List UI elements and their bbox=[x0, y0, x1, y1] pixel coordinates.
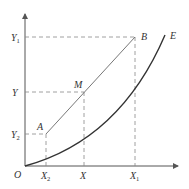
diagram-canvas: O A M B E Y1 Y Y2 X2 X X1 bbox=[0, 0, 189, 189]
label-y2: Y2 bbox=[11, 129, 20, 141]
label-origin: O bbox=[14, 169, 21, 180]
guide-lines bbox=[25, 37, 135, 166]
label-x1: X1 bbox=[129, 170, 139, 182]
segment-ab bbox=[46, 37, 135, 134]
label-x: X bbox=[79, 170, 87, 181]
label-y: Y bbox=[12, 87, 19, 98]
label-m: M bbox=[73, 79, 83, 90]
label-x2: X2 bbox=[40, 170, 50, 182]
curve-oe bbox=[25, 35, 165, 166]
label-a: A bbox=[36, 121, 44, 132]
label-b: B bbox=[141, 31, 147, 42]
label-y1: Y1 bbox=[11, 32, 20, 44]
label-e: E bbox=[169, 30, 176, 41]
